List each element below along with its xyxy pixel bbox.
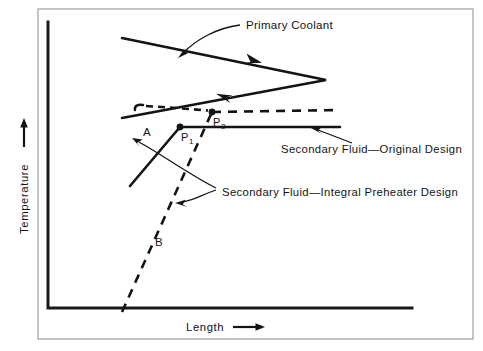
secondary-preheater-plateau [212,110,340,112]
axes-group [48,22,412,308]
point-p1-label: P 1 [181,131,194,146]
callout-secondary-original: Secondary Fluid—Original Design [281,126,462,155]
x-arrow-head [256,323,266,331]
axis-lines [48,22,412,308]
x-axis-arrow-icon [233,323,265,331]
secondary-original-label: Secondary Fluid—Original Design [281,143,462,155]
figure-frame-border [38,9,473,339]
primary-coolant-flow-arrow-forward [244,54,262,64]
secondary-preheater-leader-upper [139,142,216,188]
point-p2-subscript: 2 [221,122,226,131]
region-label-b: B [155,236,163,248]
secondary-preheater-left-hook [135,105,143,110]
temperature-length-diagram: Temperature Length Primary Coolant [0,0,483,351]
y-axis-arrow-icon [20,118,28,147]
secondary-preheater-left-stub-2 [182,109,208,111]
y-arrow-head [20,118,28,128]
secondary-original-leader [318,130,352,143]
point-p2-label: P 2 [213,116,226,131]
point-p2-base: P [213,116,220,128]
secondary-preheater-left-stub [146,106,176,108]
callout-primary-coolant: Primary Coolant [178,19,333,58]
secondary-original-curve [130,127,340,186]
primary-coolant-label: Primary Coolant [246,19,333,31]
point-p1-base: P [181,131,188,143]
secondary-preheater-label: Secondary Fluid—Integral Preheater Desig… [222,186,458,198]
point-p1-marker [177,124,184,131]
region-label-a: A [143,126,151,138]
point-p2-marker [209,109,216,116]
point-p1-subscript: 1 [189,137,194,146]
primary-coolant-leader [183,25,240,53]
secondary-original-path [130,127,340,186]
x-axis-title: Length [186,321,224,333]
secondary-preheater-leader-lower [182,190,216,202]
flow-arrow-head-forward [244,54,262,64]
secondary-preheater-curve [122,105,340,312]
y-axis-title: Temperature [18,164,30,234]
figure-container: Temperature Length Primary Coolant [0,0,483,351]
